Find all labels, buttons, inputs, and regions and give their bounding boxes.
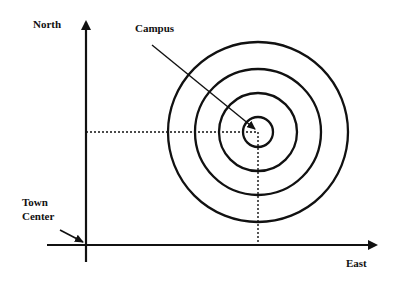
north-label: North bbox=[33, 18, 61, 30]
campus-pointer-arrow bbox=[152, 45, 255, 129]
campus-location-diagram: North Campus East Town Center bbox=[0, 0, 399, 283]
east-label: East bbox=[346, 257, 367, 269]
town-center-label-line1: Town bbox=[22, 196, 48, 208]
campus-label: Campus bbox=[135, 22, 175, 34]
town-center-pointer-arrow bbox=[60, 230, 83, 242]
town-center-label-line2: Center bbox=[22, 210, 54, 222]
